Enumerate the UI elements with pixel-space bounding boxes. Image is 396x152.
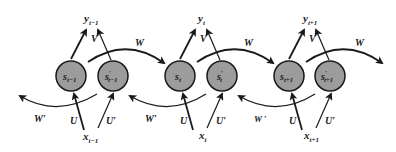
w-prime-weight-label: W′ — [145, 113, 157, 124]
w-weight-label: W — [135, 37, 145, 48]
w-weight-label: W — [355, 37, 365, 48]
u-weight-label: U — [180, 115, 188, 126]
u-weight-label: U — [289, 115, 297, 126]
output-label: yt — [196, 12, 206, 27]
backward-recurrent-arrow — [239, 94, 315, 107]
forward-state-node: st−1 — [56, 61, 86, 91]
u-weight-label: U — [70, 115, 78, 126]
output-label: yt+1 — [301, 12, 317, 27]
forward-recurrent-arrow — [306, 49, 382, 63]
input-label: xt — [198, 129, 208, 144]
timestep-t-plus-1: yt+1 V W W ′ U U′ xt+1 st+1 s′t+1 — [239, 12, 382, 144]
input-label: xt−1 — [82, 130, 98, 145]
backward-recurrent-arrow — [20, 94, 97, 107]
v-weight-label: V — [91, 33, 99, 44]
w-prime-weight-label: W ′ — [254, 114, 267, 124]
timestep-t: yt V W W′ U U′ xt st s′t — [130, 12, 273, 144]
backward-state-node: s′t — [207, 61, 237, 91]
backward-recurrent-arrow — [130, 94, 206, 107]
forward-to-output-arrow — [289, 30, 304, 59]
u-prime-weight-label: U′ — [106, 115, 116, 126]
w-weight-label: W — [244, 37, 254, 48]
forward-state-node: st+1 — [274, 61, 304, 91]
forward-recurrent-arrow — [88, 49, 164, 63]
forward-state-node: st — [165, 61, 195, 91]
forward-to-output-arrow — [71, 30, 86, 59]
v-weight-label: V — [200, 33, 208, 44]
timestep-t-minus-1: yt−1 V W W′ U U′ xt−1 st−1 s′t−1 — [20, 12, 164, 145]
forward-to-output-arrow — [180, 30, 195, 59]
birnn-diagram: yt−1 V W W′ U U′ xt−1 st−1 s′t−1 yt V W — [0, 0, 396, 152]
input-label: xt+1 — [303, 129, 319, 144]
u-prime-weight-label: U′ — [325, 115, 335, 126]
forward-recurrent-arrow — [197, 49, 273, 63]
backward-state-node: s′t−1 — [98, 61, 128, 91]
u-prime-weight-label: U′ — [216, 115, 226, 126]
diagram-canvas: yt−1 V W W′ U U′ xt−1 st−1 s′t−1 yt V W — [0, 0, 396, 152]
v-weight-label: V — [309, 33, 317, 44]
w-prime-weight-label: W′ — [34, 113, 46, 124]
output-label: yt−1 — [82, 12, 99, 27]
backward-state-node: s′t+1 — [315, 61, 345, 91]
